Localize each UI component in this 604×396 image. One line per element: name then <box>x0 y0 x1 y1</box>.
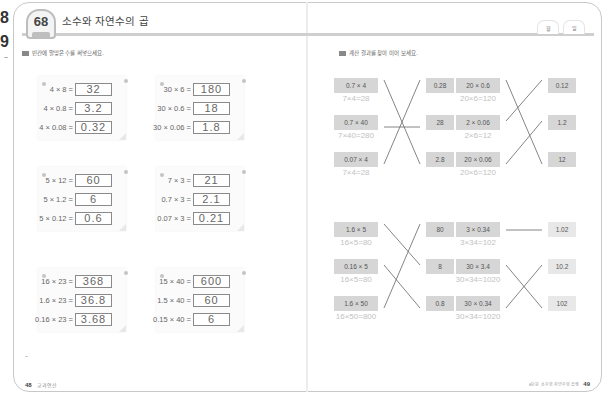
match-line <box>384 265 420 308</box>
page-mark <box>25 356 28 357</box>
page-number: 49 <box>583 381 590 387</box>
match-line <box>506 80 542 164</box>
page-number: 48 <box>25 382 32 388</box>
match-line <box>506 121 542 164</box>
match-line <box>384 224 420 308</box>
footer-label: 6단원 소수와 자연수의 곱셈 <box>529 381 579 387</box>
matching-lines <box>0 0 604 396</box>
right-footer: 6단원 소수와 자연수의 곱셈 49 <box>529 381 590 387</box>
match-line <box>384 224 420 265</box>
footer-label: 교과연산 <box>37 381 57 388</box>
match-line <box>506 80 542 121</box>
left-footer: 48 교과연산 <box>25 381 57 388</box>
